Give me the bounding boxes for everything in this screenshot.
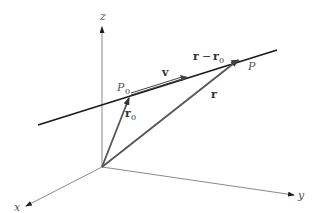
svg-text:0: 0 bbox=[219, 56, 224, 65]
x-axis bbox=[26, 167, 102, 206]
svg-text:r: r bbox=[193, 50, 199, 63]
x-axis-label: x bbox=[14, 201, 21, 213]
svg-text:0: 0 bbox=[131, 113, 136, 122]
svg-text:−: − bbox=[202, 50, 211, 63]
vector-r0-label: r 0 bbox=[125, 107, 136, 122]
point-p-label: P bbox=[247, 60, 256, 73]
diagram-canvas: z x y P 0 P v r − r 0 r 0 r bbox=[0, 0, 325, 213]
vector-v bbox=[131, 75, 188, 95]
z-axis-label: z bbox=[99, 10, 106, 23]
line-L bbox=[38, 50, 277, 125]
point-p0-subscript: 0 bbox=[125, 87, 130, 96]
vector-v-label: v bbox=[161, 66, 169, 79]
y-axis-label: y bbox=[297, 189, 305, 202]
vector-r-minus-r0-label: r − r 0 bbox=[193, 50, 224, 65]
y-axis bbox=[102, 167, 294, 195]
point-p0-label: P bbox=[116, 81, 125, 94]
vector-r-label: r bbox=[211, 88, 217, 101]
